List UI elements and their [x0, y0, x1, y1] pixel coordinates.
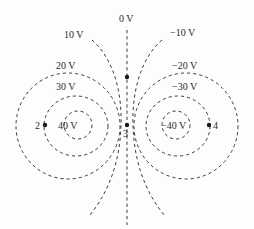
- point-4-label: 4: [213, 120, 218, 131]
- point-1-marker: [125, 75, 129, 79]
- label-minus20v: −20 V: [172, 60, 198, 71]
- point-2-marker: [43, 123, 47, 127]
- point-3-label: 3: [123, 128, 128, 139]
- label-minus40v: −40 V: [161, 120, 187, 131]
- label-minus30v: −30 V: [172, 81, 198, 92]
- point-2-label: 2: [35, 120, 40, 131]
- equipotential-minus10v: [133, 40, 164, 215]
- label-0v: 0 V: [119, 13, 134, 24]
- label-20v: 20 V: [56, 60, 76, 71]
- label-40v: 40 V: [58, 120, 78, 131]
- label-30v: 30 V: [56, 81, 76, 92]
- equipotential-diagram: 0 V 10 V −10 V 20 V −20 V 30 V −30 V 40 …: [0, 0, 254, 229]
- diagram-svg: 0 V 10 V −10 V 20 V −20 V 30 V −30 V 40 …: [0, 0, 254, 229]
- label-10v: 10 V: [64, 29, 84, 40]
- equipotential-10v: [90, 40, 121, 215]
- label-minus10v: −10 V: [170, 27, 196, 38]
- point-4-marker: [207, 123, 211, 127]
- point-3-marker: [125, 123, 129, 127]
